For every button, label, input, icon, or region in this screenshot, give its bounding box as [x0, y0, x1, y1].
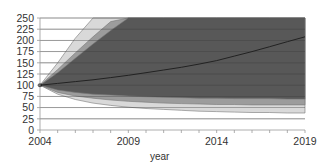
y-tick-label: 50: [22, 101, 34, 113]
fan-chart: 0255075100125150175200225250 20042009201…: [0, 0, 326, 163]
y-tick-label: 250: [16, 12, 34, 24]
y-tick-label: 75: [22, 90, 34, 102]
y-tick-label: 200: [16, 34, 34, 46]
x-tick-label: 2004: [28, 135, 52, 147]
x-tick-label: 2014: [205, 135, 229, 147]
inner-band: [40, 18, 305, 99]
x-tick-label: 2009: [117, 135, 141, 147]
y-tick-label: 100: [16, 79, 34, 91]
y-tick-label: 25: [22, 113, 34, 125]
x-axis-tick-labels: 2004200920142019: [28, 135, 317, 147]
y-tick-label: 225: [16, 23, 34, 35]
y-tick-label: 125: [16, 68, 34, 80]
x-tick-label: 2019: [293, 135, 317, 147]
y-tick-label: 150: [16, 57, 34, 69]
y-tick-label: 0: [28, 124, 34, 136]
y-axis-tick-labels: 0255075100125150175200225250: [16, 12, 34, 136]
x-axis-title: year: [150, 151, 170, 162]
y-tick-label: 175: [16, 45, 34, 57]
confidence-bands: [40, 18, 305, 113]
